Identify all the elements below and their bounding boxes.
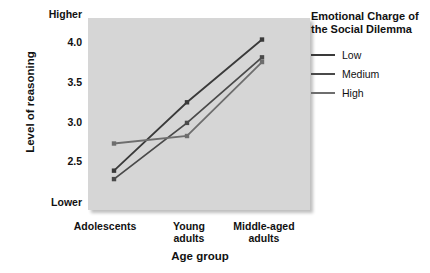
plot-canvas xyxy=(88,18,310,210)
series-low xyxy=(112,37,264,173)
legend-title-line2: the Social Dilemma xyxy=(311,23,430,36)
data-point xyxy=(185,100,189,104)
series-medium xyxy=(112,55,264,181)
x-tick-label-middle-aged-adults-line2: adults xyxy=(222,232,306,244)
data-point xyxy=(112,177,116,181)
data-point xyxy=(112,168,116,172)
legend-swatch-medium xyxy=(311,73,335,75)
data-point xyxy=(260,37,264,41)
figure-root: Higher 4.0 3.5 3.0 2.5 Lower Level of re… xyxy=(0,0,430,273)
data-point xyxy=(112,141,116,145)
legend-item-medium: Medium xyxy=(311,64,430,83)
x-tick-label-young-adults: Young adults xyxy=(147,220,231,244)
series-line-low xyxy=(114,40,262,171)
legend-label-medium: Medium xyxy=(342,68,379,80)
legend-label-low: Low xyxy=(342,49,361,61)
legend-item-high: High xyxy=(311,83,430,102)
data-point xyxy=(260,60,264,64)
series-line-medium xyxy=(114,57,262,179)
x-tick-label-middle-aged-adults-line1: Middle-aged xyxy=(222,220,306,232)
x-tick-label-young-adults-line1: Young xyxy=(147,220,231,232)
legend-title: Emotional Charge of the Social Dilemma xyxy=(311,10,430,36)
legend-swatch-low xyxy=(311,54,335,56)
legend: Emotional Charge of the Social Dilemma L… xyxy=(311,10,430,102)
series-layer xyxy=(112,37,264,181)
x-tick-label-young-adults-line2: adults xyxy=(147,232,231,244)
x-axis-title: Age group xyxy=(120,250,280,262)
legend-item-low: Low xyxy=(311,45,430,64)
data-point xyxy=(185,134,189,138)
data-point xyxy=(185,121,189,125)
x-tick-label-middle-aged-adults: Middle-aged adults xyxy=(222,220,306,244)
legend-title-line1: Emotional Charge of xyxy=(311,10,430,23)
plot-area xyxy=(88,18,310,210)
y-axis-high-label: Higher xyxy=(26,8,82,20)
y-axis-low-label: Lower xyxy=(26,196,82,208)
x-tick-label-adolescents: Adolescents xyxy=(63,220,147,232)
y-axis-title: Level of reasoning xyxy=(24,27,36,177)
legend-swatch-high xyxy=(311,92,335,94)
data-point xyxy=(260,55,264,59)
legend-label-high: High xyxy=(342,87,364,99)
legend-items: LowMediumHigh xyxy=(311,45,430,102)
x-tick-label-adolescents-line1: Adolescents xyxy=(63,220,147,232)
